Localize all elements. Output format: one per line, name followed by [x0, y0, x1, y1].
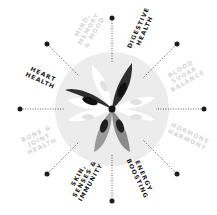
wheel-diagram: [0, 0, 217, 215]
